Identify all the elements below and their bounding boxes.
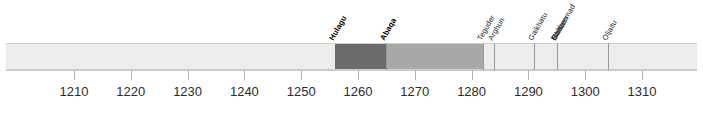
axis-tick-1230	[188, 70, 189, 80]
axis-tick-1240	[244, 70, 245, 80]
axis-tick-1270	[415, 70, 416, 80]
axis-tick-1220	[131, 70, 132, 80]
axis-tick-1210	[74, 70, 75, 80]
axis-tick-label-1230: 1230	[173, 84, 202, 99]
axis-line	[6, 70, 697, 71]
axis-tick-1290	[528, 70, 529, 80]
reign-timeline-bar	[6, 43, 697, 70]
axis-tick-1310	[642, 70, 643, 80]
axis-tick-label-1220: 1220	[116, 84, 145, 99]
axis-tick-label-1250: 1250	[287, 84, 316, 99]
ilkhanate-reign-timeline: HulaguAbaqaTeguderArghunGaikhatuBaiduMuh…	[0, 0, 703, 113]
reign-segment-abaqa	[386, 44, 483, 69]
reign-divider-arghun	[494, 43, 495, 71]
ruler-label-gaikhatu: Gaikhatu	[526, 11, 549, 42]
axis-tick-label-1310: 1310	[628, 84, 657, 99]
reign-divider-abaqa	[386, 43, 387, 71]
reign-segment-hulagu	[335, 44, 386, 69]
axis-tick-label-1280: 1280	[457, 84, 486, 99]
axis-tick-label-1210: 1210	[60, 84, 89, 99]
axis-tick-1280	[472, 70, 473, 80]
axis-tick-label-1240: 1240	[230, 84, 259, 99]
axis-tick-label-1270: 1270	[400, 84, 429, 99]
ruler-label-ghazan: Ghazan	[549, 14, 570, 42]
axis-tick-label-1290: 1290	[514, 84, 543, 99]
axis-tick-1260	[358, 70, 359, 80]
reign-divider-gaikhatu	[534, 43, 535, 71]
axis-tick-1250	[301, 70, 302, 80]
reign-divider-ghazan	[557, 43, 558, 71]
axis-tick-label-1260: 1260	[344, 84, 373, 99]
axis-tick-1300	[585, 70, 586, 80]
ruler-label-oljaitu: Oljaitu	[600, 18, 619, 42]
reign-divider-oljaitu	[608, 43, 609, 71]
ruler-label-abaqa: Abaqa	[379, 16, 399, 42]
axis-tick-label-1300: 1300	[571, 84, 600, 99]
ruler-label-hulagu: Hulagu	[327, 14, 348, 42]
reign-divider-teguder	[483, 43, 484, 71]
